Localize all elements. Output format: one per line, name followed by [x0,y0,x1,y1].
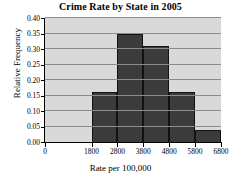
bar [169,92,195,142]
y-tick [41,111,45,112]
y-tick [41,18,45,19]
gridline [45,79,221,80]
y-tick [41,34,45,35]
plot-area [45,18,221,142]
y-tick [41,96,45,97]
y-tick-label: 0.00 [0,138,40,147]
y-tick [41,49,45,50]
y-tick [41,65,45,66]
gridline [45,110,221,111]
x-tick-label: 6800 [201,147,241,156]
bar [195,130,221,142]
bar-series [45,18,221,142]
x-tick-label: 0 [25,147,65,156]
gridline [45,48,221,49]
bar [92,92,118,142]
y-tick [41,80,45,81]
gridline [45,64,221,65]
gridline [45,126,221,127]
chart-figure: Crime Rate by State in 2005 0.000.050.10… [0,0,241,184]
gridline [45,95,221,96]
y-tick [41,127,45,128]
gridline [45,17,221,18]
x-axis-title: Rate per 100,000 [0,163,241,173]
gridline [45,33,221,34]
y-axis-title: Relative Frequency [12,0,22,128]
